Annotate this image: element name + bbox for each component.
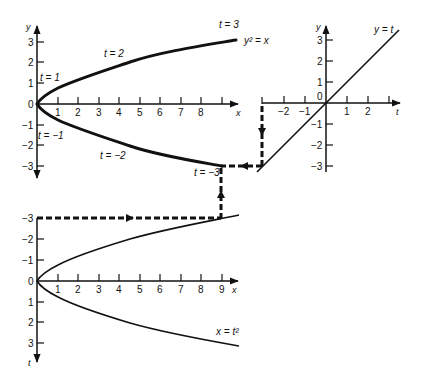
svg-text:−3: −3	[22, 213, 34, 224]
svg-text:0: 0	[317, 91, 323, 102]
arrow-down-icon	[258, 128, 266, 136]
svg-text:8: 8	[198, 107, 204, 118]
svg-text:1: 1	[344, 106, 350, 117]
svg-text:5: 5	[137, 107, 143, 118]
label-t-equals-minus-2: t = −2	[100, 150, 126, 161]
t-axis-label-bottom: t	[28, 358, 31, 368]
label-t-equals-1: t = 1	[40, 72, 60, 83]
label-t-equals-2: t = 2	[104, 48, 124, 59]
svg-text:0: 0	[28, 276, 34, 287]
svg-text:4: 4	[116, 107, 122, 118]
svg-text:−1: −1	[22, 255, 34, 266]
svg-text:−2: −2	[22, 140, 34, 151]
t-ticks-right: −2 −1 1 2	[278, 96, 389, 117]
label-curve-y-squared-equals-x: y² = x	[243, 35, 270, 46]
svg-text:1: 1	[55, 107, 61, 118]
svg-text:8: 8	[198, 284, 204, 295]
svg-text:7: 7	[178, 284, 184, 295]
svg-text:3: 3	[96, 284, 102, 295]
t-axis-label-right: t	[396, 107, 399, 117]
label-y-equals-t: y = t	[373, 24, 394, 35]
svg-text:3: 3	[96, 107, 102, 118]
y-axis-label: y	[25, 22, 31, 32]
dashed-mapping-path	[37, 106, 266, 222]
panel-y-equals-t: y t 3 2 1 0 −1 −2 −3 −2 −1 1 2	[257, 22, 400, 172]
panel-x-equals-t-squared: t x −3 −2 −1 0 1 2 3 1 2	[22, 213, 239, 368]
panel-y-squared-equals-x: y x 3 2 1 0 −1 −2 −3	[22, 19, 270, 178]
svg-text:1: 1	[55, 284, 61, 295]
x-ticks-bottom: 1 2 3 4 5 6 7 8 9	[55, 274, 225, 295]
svg-text:6: 6	[157, 107, 163, 118]
svg-text:6: 6	[157, 284, 163, 295]
svg-text:−2: −2	[311, 140, 323, 151]
label-x-equals-t-squared: x = t²	[215, 326, 239, 337]
svg-text:2: 2	[75, 284, 81, 295]
x-axis-label: x	[235, 108, 241, 118]
svg-text:1: 1	[28, 78, 34, 89]
svg-text:3: 3	[28, 338, 34, 349]
svg-text:1: 1	[28, 297, 34, 308]
svg-text:−3: −3	[22, 161, 34, 172]
svg-text:4: 4	[116, 284, 122, 295]
label-t-equals-minus-3: t = −3	[194, 167, 220, 178]
parametric-diagram: y x 3 2 1 0 −1 −2 −3	[0, 0, 423, 390]
svg-text:2: 2	[28, 317, 34, 328]
arrow-up-icon	[217, 190, 225, 198]
svg-text:3: 3	[317, 35, 323, 46]
svg-text:3: 3	[28, 37, 34, 48]
svg-text:9: 9	[219, 284, 225, 295]
svg-text:1: 1	[317, 77, 323, 88]
svg-text:−1: −1	[311, 119, 323, 130]
y-axis-label-right: y	[315, 22, 321, 32]
svg-text:2: 2	[317, 56, 323, 67]
x-axis-label-bottom: x	[231, 285, 237, 295]
svg-text:−2: −2	[278, 106, 290, 117]
svg-text:0: 0	[28, 99, 34, 110]
svg-text:2: 2	[28, 57, 34, 68]
svg-text:2: 2	[75, 107, 81, 118]
svg-text:2: 2	[365, 106, 371, 117]
svg-text:−2: −2	[22, 234, 34, 245]
svg-text:−1: −1	[299, 106, 311, 117]
svg-text:5: 5	[137, 284, 143, 295]
label-t-equals-minus-1: t = −1	[38, 130, 64, 141]
svg-text:−3: −3	[311, 161, 323, 172]
label-t-equals-3: t = 3	[219, 19, 239, 30]
svg-text:7: 7	[178, 107, 184, 118]
line-y-equals-t	[257, 30, 399, 172]
arrow-right-icon	[126, 214, 134, 222]
svg-text:−1: −1	[22, 120, 34, 131]
arrow-left-icon	[240, 162, 248, 170]
curve-y-squared-equals-x	[37, 40, 236, 166]
x-ticks: 1 2 3 4 5 6 7 8	[55, 97, 222, 118]
